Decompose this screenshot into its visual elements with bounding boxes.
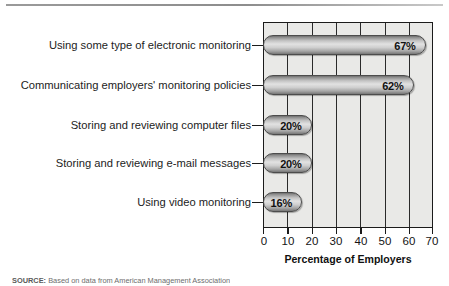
chart-row: Storing and reviewing e-mail messages 20… (0, 152, 449, 174)
xtick-label-70: 70 (417, 235, 447, 247)
category-label: Communicating employers' monitoring poli… (21, 74, 251, 96)
bar-series-4[interactable]: 16% (263, 192, 302, 212)
category-label: Storing and reviewing computer files (71, 114, 251, 136)
leader-line (252, 163, 263, 165)
source-note-label: SOURCE: (12, 276, 46, 285)
chart-row: Storing and reviewing computer files 20% (0, 114, 449, 136)
bar-series-0[interactable]: 67% (263, 35, 426, 55)
category-label: Using video monitoring (137, 191, 251, 213)
bar-series-2[interactable]: 20% (263, 115, 312, 135)
x-axis-title: Percentage of Employers (263, 253, 433, 265)
bar-series-1[interactable]: 62% (263, 75, 414, 95)
bar-value-label: 62% (382, 76, 403, 96)
xtick-mark-20 (312, 228, 313, 234)
chart-row: Using video monitoring 16% (0, 191, 449, 213)
leader-line (252, 85, 263, 87)
xtick-mark-40 (360, 228, 361, 234)
xtick-mark-30 (336, 228, 337, 234)
source-note: SOURCE: Based on data from American Mana… (12, 276, 230, 286)
chart-row: Using some type of electronic monitoring… (0, 34, 449, 56)
category-label: Storing and reviewing e-mail messages (56, 152, 251, 174)
top-divider-rule (6, 4, 443, 6)
xtick-mark-0 (263, 228, 264, 234)
source-note-text: Based on data from American Management A… (48, 276, 230, 285)
chart-row: Communicating employers' monitoring poli… (0, 74, 449, 96)
leader-line (252, 45, 263, 47)
xtick-mark-10 (287, 228, 288, 234)
bar-series-3[interactable]: 20% (263, 153, 312, 173)
xtick-mark-70 (432, 228, 433, 234)
category-label: Using some type of electronic monitoring (49, 34, 251, 56)
bar-value-label: 20% (280, 116, 301, 136)
bar-value-label: 16% (271, 193, 292, 213)
bar-value-label: 20% (280, 154, 301, 174)
bar-value-label: 67% (394, 36, 415, 56)
figure-container: Using some type of electronic monitoring… (0, 0, 449, 286)
xtick-mark-60 (409, 228, 410, 234)
xtick-mark-50 (385, 228, 386, 234)
leader-line (252, 125, 263, 127)
leader-line (252, 202, 263, 204)
